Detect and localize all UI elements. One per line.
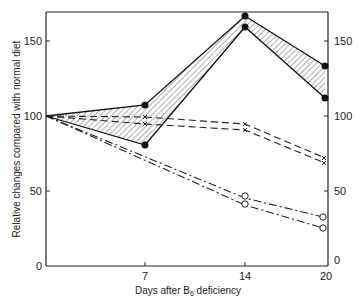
y-tick-label: 100 [24,110,42,122]
hatched-band [46,16,325,145]
x-tick-label: 14 [239,270,251,282]
series-dashdot-upper [46,116,323,217]
y-axis-label: Relative changes compared with normal di… [11,40,22,237]
y-tick-label-right: 0 [334,254,340,266]
y-tick-label: 50 [30,185,42,197]
cross-markers [143,115,326,165]
y-tick-label-right: 150 [334,35,352,47]
y-tick-label: 150 [24,35,42,47]
y-tick-label-right: 50 [334,185,346,197]
y-tick-label-right: 100 [334,110,352,122]
series-solid-upper [46,16,325,116]
x-tick-label: 20 [320,270,332,282]
x-axis-label: Days after B6 deficiency [135,285,241,297]
y-tick-label: 0 [36,260,42,272]
x-axis: 7 14 20 [142,262,332,282]
chart: 0 50 100 150 0 50 100 150 7 14 20 Days a… [0,0,359,301]
x-tick-label: 7 [142,270,148,282]
